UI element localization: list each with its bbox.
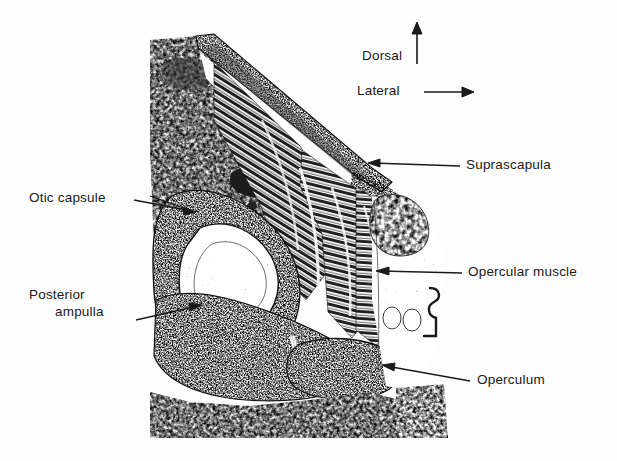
label-posterior-ampulla-line2: ampulla: [29, 304, 104, 321]
label-posterior-ampulla-line1: Posterior: [29, 287, 85, 304]
label-opercular-muscle: Opercular muscle: [468, 264, 577, 281]
label-otic-capsule: Otic capsule: [29, 190, 106, 207]
anatomical-figure: [0, 0, 617, 461]
label-suprascapula: Suprascapula: [466, 157, 551, 174]
orientation-label-lateral: Lateral: [357, 83, 400, 100]
orientation-label-dorsal: Dorsal: [362, 48, 402, 65]
label-operculum: Operculum: [477, 372, 545, 389]
